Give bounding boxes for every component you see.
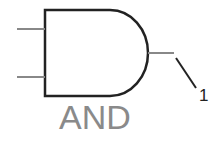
output-pin-label: 1: [199, 86, 208, 106]
gate-type-label: AND: [50, 100, 140, 134]
output-leader-line: [176, 58, 196, 88]
and-gate-body: [45, 10, 148, 96]
